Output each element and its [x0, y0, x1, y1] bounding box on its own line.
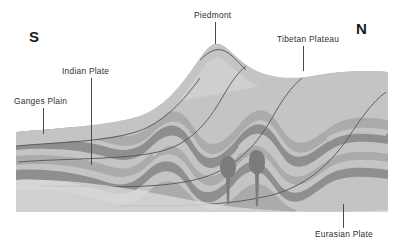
compass-south-label: S	[29, 28, 40, 45]
label-tibetan-plateau: Tibetan Plateau	[277, 34, 339, 44]
compass-north-label: N	[356, 20, 367, 37]
leader-line-tibetan-plateau	[303, 46, 304, 71]
leader-line-ganges-plain	[43, 108, 44, 134]
label-piedmont: Piedmont	[194, 10, 231, 20]
label-eurasian-plate: Eurasian Plate	[315, 229, 373, 239]
leader-line-eurasian-plate	[343, 204, 344, 228]
label-indian-plate: Indian Plate	[62, 66, 109, 76]
leader-line-piedmont	[215, 22, 216, 44]
geologic-cross-section-diagram: S N Ganges Plain Indian Plate Piedmont T…	[0, 0, 406, 248]
leader-line-indian-plate	[91, 78, 92, 165]
cross-section-illustration	[0, 0, 406, 248]
label-ganges-plain: Ganges Plain	[14, 96, 67, 106]
